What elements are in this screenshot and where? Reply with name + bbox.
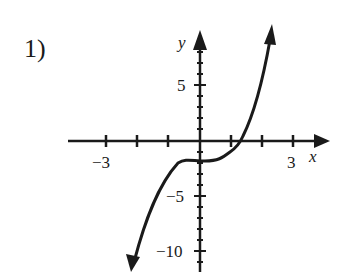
x-tick-label-3: 3: [287, 153, 296, 172]
x-tick-label-neg3: −3: [92, 153, 110, 172]
x-axis-label: x: [308, 147, 317, 166]
curve-bottom-arrow-icon: [126, 254, 140, 272]
curve-top-arrow-icon: [264, 24, 276, 45]
x-axis-arrow-icon: [314, 134, 330, 148]
function-graph: −3 3 x y 5 −5 −10: [0, 0, 341, 278]
y-tick-label-neg10: −10: [156, 242, 183, 261]
y-tick-label-5: 5: [177, 76, 186, 95]
y-tick-label-neg5: −5: [166, 187, 184, 206]
y-axis-arrow-icon: [193, 30, 207, 50]
y-axis-label: y: [176, 33, 186, 52]
